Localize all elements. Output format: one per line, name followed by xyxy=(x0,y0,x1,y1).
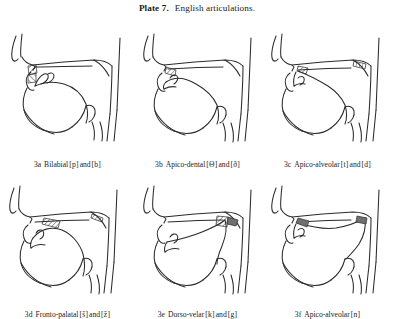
vocal-tract-diagram-3e xyxy=(132,176,263,296)
figure-conjunction-3c: and xyxy=(350,160,361,169)
figure-cell-3c: 3cApico-alveolar[t]and[d] xyxy=(262,26,393,176)
figure-symbol-close-3e: ] xyxy=(212,310,215,319)
figure-symbol-close-3a: ] xyxy=(76,160,79,169)
plate-number: Plate 7. xyxy=(139,3,169,13)
figure-caption-3e: 3eDorso-velar[k]and[g] xyxy=(132,310,263,319)
articulation-shading-3d xyxy=(42,214,103,228)
figure-symbol-close-3f: ] xyxy=(357,310,360,319)
plate-title: Plate 7.English articulations. xyxy=(0,3,394,13)
articulation-shading-3a xyxy=(28,65,37,83)
figure-symbol-close2-3b: ] xyxy=(237,160,240,169)
figure-symbol-close-3d: ] xyxy=(85,310,88,319)
figure-label-3e: 3e xyxy=(158,310,165,319)
figure-label-3f: 3f xyxy=(295,310,301,319)
vocal-tract-diagram-3f xyxy=(262,176,393,296)
figure-caption-3f: 3fApico-alveolar[n] xyxy=(262,310,393,319)
plate-figure: Plate 7.English articulations. xyxy=(0,0,394,319)
vocal-tract-diagram-3a xyxy=(2,26,133,146)
vocal-tract-diagram-3c xyxy=(262,26,393,146)
figure-symbol-close2-3d: ] xyxy=(107,310,110,319)
figure-symbol-close-3c: ] xyxy=(346,160,349,169)
figure-cell-3a: 3aBilabial[p]and[b] xyxy=(2,26,133,176)
figure-caption-3d: 3dFronto-palatal[š]and[ž] xyxy=(2,310,133,319)
figure-conjunction-3a: and xyxy=(80,160,91,169)
figure-cell-3f: 3fApico-alveolar[n] xyxy=(262,176,393,319)
articulation-shading-3f xyxy=(296,216,367,227)
figure-conjunction-3e: and xyxy=(216,310,227,319)
figure-label-3b: 3b xyxy=(155,160,163,169)
figure-name-3e: Dorso-velar xyxy=(168,310,204,319)
figure-name-3a: Bilabial xyxy=(44,160,68,169)
figure-label-3c: 3c xyxy=(284,160,291,169)
figure-symbol-close2-3e: ] xyxy=(234,310,237,319)
figure-name-3b: Apico-dental xyxy=(166,160,206,169)
figure-row-bottom: 3dFronto-palatal[š]and[ž] xyxy=(0,176,394,319)
figure-name-3f: Apico-alveolar xyxy=(304,310,350,319)
vocal-tract-diagram-3b xyxy=(132,26,263,146)
figure-cell-3d: 3dFronto-palatal[š]and[ž] xyxy=(2,176,133,319)
figure-grid: 3aBilabial[p]and[b] xyxy=(0,26,394,319)
figure-name-3d: Fronto-palatal xyxy=(35,310,78,319)
figure-label-3d: 3d xyxy=(25,310,33,319)
figure-caption-3a: 3aBilabial[p]and[b] xyxy=(2,160,133,170)
figure-cell-3e: 3eDorso-velar[k]and[g] xyxy=(132,176,263,319)
figure-symbol-close2-3a: ] xyxy=(98,160,101,169)
articulation-shading-3e xyxy=(216,216,238,227)
vocal-tract-diagram-3d xyxy=(2,176,133,296)
figure-caption-3c: 3cApico-alveolar[t]and[d] xyxy=(262,160,393,170)
figure-symbol-close2-3c: ] xyxy=(368,160,371,169)
figure-conjunction-3d: and xyxy=(89,310,100,319)
figure-caption-3b: 3bApico-dental[Θ]and[ð] xyxy=(132,160,263,170)
figure-row-top: 3aBilabial[p]and[b] xyxy=(0,26,394,176)
figure-cell-3b: 3bApico-dental[Θ]and[ð] xyxy=(132,26,263,176)
figure-conjunction-3b: and xyxy=(218,160,229,169)
figure-name-3c: Apico-alveolar xyxy=(294,160,340,169)
plate-title-text: English articulations. xyxy=(175,3,255,13)
figure-label-3a: 3a xyxy=(34,160,41,169)
